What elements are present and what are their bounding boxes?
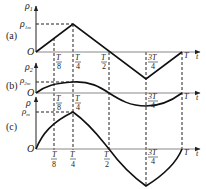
- panel-a: ρ1 ρ1m (a) O T 8 T 4 T 2 3T 4 T t: [6, 0, 200, 79]
- waveform-diagram: ρ1 ρ1m (a) O T 8 T 4 T 2 3T 4 T t ρ2 ρ2m…: [0, 0, 206, 189]
- svg-text:2: 2: [102, 62, 106, 71]
- svg-text:T: T: [75, 53, 80, 62]
- y-label-a: ρ1: [24, 0, 33, 12]
- panel-label-c: (c): [6, 121, 17, 133]
- panel-c: ρ ρm (c) O T 8 T 4 T 2 3T 4 T t: [6, 97, 200, 186]
- svg-text:4: 4: [151, 62, 155, 71]
- panel-label-a: (a): [6, 30, 17, 42]
- svg-text:t: t: [196, 149, 199, 158]
- svg-text:4: 4: [76, 103, 80, 112]
- svg-text:T: T: [70, 150, 75, 159]
- origin-c: O: [27, 143, 34, 154]
- svg-text:8: 8: [57, 62, 61, 71]
- svg-text:3T: 3T: [147, 92, 157, 101]
- y-label-b: ρ2: [24, 61, 33, 73]
- svg-text:T: T: [75, 94, 80, 103]
- origin-a: O: [27, 46, 34, 57]
- svg-text:3T: 3T: [147, 53, 157, 62]
- svg-text:8: 8: [52, 160, 56, 169]
- svg-text:4: 4: [151, 157, 155, 166]
- svg-text:T: T: [184, 51, 189, 60]
- svg-text:4: 4: [76, 62, 80, 71]
- panel-label-b: (b): [6, 80, 18, 92]
- peak-label-a: ρ1m: [19, 18, 31, 30]
- svg-text:T: T: [52, 150, 57, 159]
- svg-text:3T: 3T: [147, 148, 157, 157]
- svg-text:T: T: [101, 53, 106, 62]
- ticks-a: T 8 T 4 T 2 3T 4 T t: [56, 51, 199, 71]
- svg-text:T: T: [56, 53, 61, 62]
- svg-text:4: 4: [71, 160, 75, 169]
- svg-text:T: T: [56, 94, 61, 103]
- svg-text:4: 4: [151, 101, 155, 110]
- svg-text:T: T: [184, 92, 189, 101]
- svg-text:t: t: [196, 93, 199, 102]
- svg-text:2: 2: [105, 160, 109, 169]
- svg-text:8: 8: [57, 103, 61, 112]
- svg-text:T: T: [104, 150, 109, 159]
- svg-text:t: t: [196, 52, 199, 61]
- svg-text:T: T: [184, 148, 189, 157]
- peak-label-b: ρ2m: [19, 75, 31, 86]
